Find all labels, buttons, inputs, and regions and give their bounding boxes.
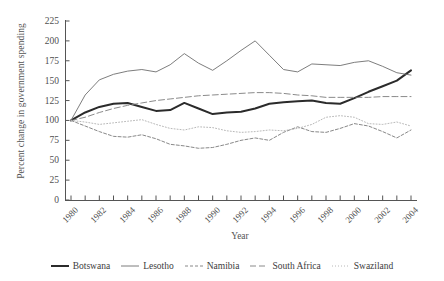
x-tick-label: 1990 [195, 205, 222, 232]
legend-label: Namibia [207, 261, 240, 271]
legend-line-swatch [185, 262, 203, 270]
x-tick-label: 1996 [280, 205, 307, 232]
legend-line-swatch [250, 262, 268, 270]
legend-line-swatch [332, 262, 350, 270]
x-tick-label: 2000 [337, 205, 364, 232]
legend-label: Lesotho [143, 261, 174, 271]
legend-item-namibia[interactable]: Namibia [185, 261, 240, 271]
x-tick-label: 2004 [393, 205, 420, 232]
x-tick-label: 1988 [167, 205, 194, 232]
x-tick-label: 1998 [308, 205, 335, 232]
legend-item-lesotho[interactable]: Lesotho [121, 261, 174, 271]
x-tick-label: 1986 [138, 205, 165, 232]
legend-item-swaziland[interactable]: Swaziland [332, 261, 394, 271]
x-tick-label: 2002 [365, 205, 392, 232]
x-tick-label: 1992 [223, 205, 250, 232]
chart-legend: BotswanaLesothoNamibiaSouth AfricaSwazil… [0, 255, 444, 277]
x-tick-label: 1982 [82, 205, 109, 232]
legend-label: South Africa [272, 261, 320, 271]
legend-line-swatch [51, 262, 69, 270]
legend-line-swatch [121, 262, 139, 270]
line-chart-figure: Percent change in government spending 22… [0, 0, 444, 281]
x-tick-label: 1980 [53, 205, 80, 232]
legend-item-botswana[interactable]: Botswana [51, 261, 110, 271]
legend-label: Swaziland [354, 261, 394, 271]
legend-item-south-africa[interactable]: South Africa [250, 261, 320, 271]
x-tick-label: 1994 [252, 205, 279, 232]
x-axis-title: Year [60, 231, 420, 241]
x-tick-label: 1984 [110, 205, 137, 232]
legend-label: Botswana [73, 261, 110, 271]
